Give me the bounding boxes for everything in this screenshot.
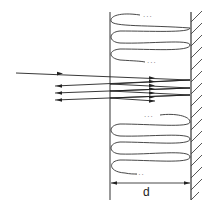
ellipsis-top-2: ... — [147, 56, 157, 65]
cavity-diagram: ... ... ... ... — [0, 0, 218, 213]
mirror-wall — [191, 11, 202, 200]
dimension-label: d — [143, 185, 150, 199]
upper-coil-path — [111, 14, 190, 62]
reflected-ray-2 — [55, 88, 190, 93]
ellipsis-top-1: ... — [143, 10, 153, 19]
incident-ray — [16, 73, 190, 80]
ellipsis-bottom-1: ... — [144, 110, 154, 119]
lower-coil-path — [111, 114, 190, 174]
ellipsis-bottom-2: ... — [135, 168, 145, 177]
ray-bundle — [16, 73, 190, 101]
dimension-d — [111, 181, 190, 185]
reflected-ray-1 — [55, 80, 190, 86]
